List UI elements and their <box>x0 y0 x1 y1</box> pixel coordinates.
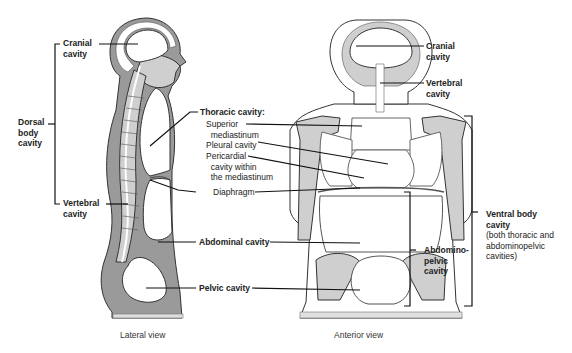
lateral-body-figure <box>101 18 186 318</box>
anterior-cranial-cavity-label: Cranial cavity <box>426 41 455 62</box>
thoracic-cavity-label: Thoracic cavity: <box>200 107 265 118</box>
ventral-body-cavity-note: (both thoracic and abdominopelvic caviti… <box>486 230 554 262</box>
ventral-body-cavity-label: Ventral body cavity <box>486 209 537 230</box>
pericardial-cavity-label: Pericardial cavity within the mediastinu… <box>206 151 273 183</box>
pelvic-cavity-label: Pelvic cavity <box>199 283 250 294</box>
anterior-view-caption: Anterior view <box>334 330 383 340</box>
lateral-vertebral-cavity-label: Vertebral cavity <box>63 198 99 219</box>
abdominopelvic-cavity-label: Abdomino- pelvic cavity <box>424 245 469 277</box>
lateral-view-caption: Lateral view <box>120 330 165 340</box>
abdominal-cavity-label: Abdominal cavity <box>199 237 269 248</box>
dorsal-body-cavity-label: Dorsal body cavity <box>18 117 44 149</box>
anterior-vertebral-cavity-label: Vertebral cavity <box>426 78 462 99</box>
superior-mediastinum-label: Superior mediastinum <box>206 119 259 140</box>
lateral-cranial-cavity-label: Cranial cavity <box>63 38 92 59</box>
diaphragm-label: Diaphragm <box>213 187 255 198</box>
pleural-cavity-label: Pleural cavity <box>206 140 257 151</box>
